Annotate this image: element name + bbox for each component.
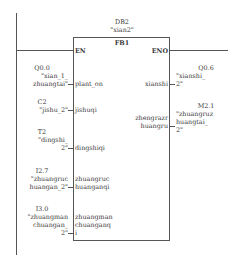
output-wire xyxy=(170,84,175,85)
output-symbol: 2" xyxy=(176,126,183,134)
output-pin-label: huangru xyxy=(120,122,168,130)
input-address: T2 xyxy=(22,128,62,136)
input-pin-label: huanganqi xyxy=(75,183,109,191)
input-symbol: huangan_2" xyxy=(6,183,68,191)
input-symbol: zhuangtai" xyxy=(6,80,68,88)
input-symbol: chuangan_ xyxy=(6,221,68,229)
output-address: Q0.6 xyxy=(186,64,226,72)
input-pin-label: chuanganq xyxy=(75,221,111,229)
instance-symbol-label: "xian2" xyxy=(95,26,149,34)
output-address: M2.1 xyxy=(186,102,226,110)
output-wire xyxy=(170,126,175,127)
input-pin-label: jishuqi xyxy=(75,106,97,114)
input-pin-label: i xyxy=(75,229,77,237)
input-wire xyxy=(68,233,73,234)
input-symbol: "jishu_2" xyxy=(10,106,68,114)
input-symbol: "zhuangman xyxy=(6,213,68,221)
output-pin-label: zhengrazr xyxy=(120,114,168,122)
input-symbol: 2" xyxy=(6,229,68,237)
input-pin-label: plant_on xyxy=(75,80,103,88)
input-wire xyxy=(68,110,73,111)
input-symbol: "dingshi_ xyxy=(10,136,68,144)
en-pin-label: EN xyxy=(75,47,86,55)
input-address: I2.7 xyxy=(22,167,62,175)
output-pin-label: xianshi xyxy=(120,80,168,88)
en-wire xyxy=(16,50,73,51)
input-pin-label: dingshiqi xyxy=(75,144,105,152)
input-pin-label: zhuangman xyxy=(75,213,113,221)
input-symbol: "zhuangruc xyxy=(6,175,68,183)
output-symbol: 2" xyxy=(176,80,183,88)
eno-pin-label: ENO xyxy=(140,47,168,55)
input-address: C2 xyxy=(22,98,62,106)
input-symbol: "xian_1_ xyxy=(10,72,68,80)
input-wire xyxy=(68,187,73,188)
input-pin-label: zhuangruc xyxy=(75,175,109,183)
eno-wire xyxy=(170,50,228,51)
output-symbol: huangtai_ xyxy=(176,118,208,126)
input-address: Q0.0 xyxy=(22,64,62,72)
output-symbol: "zhuangruz xyxy=(176,110,213,118)
input-wire xyxy=(68,148,73,149)
input-wire xyxy=(68,84,73,85)
output-symbol: "xianshi_ xyxy=(176,72,205,80)
function-block[interactable] xyxy=(73,37,170,241)
input-address: I3.0 xyxy=(22,205,62,213)
instance-db-label: DB2 xyxy=(100,18,144,26)
block-type-label: FB1 xyxy=(100,39,144,47)
input-symbol: 2" xyxy=(10,144,68,152)
